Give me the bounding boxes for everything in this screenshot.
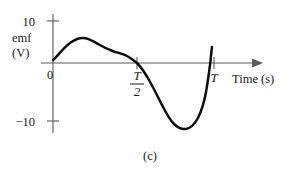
x-axis-arrow-icon: [252, 59, 263, 68]
x-tick-label-half-period-denominator: 2: [134, 84, 141, 99]
y-tick-label-10: 10: [23, 15, 36, 29]
figure-caption: (c): [143, 149, 157, 163]
y-tick-label-0: 0: [47, 68, 53, 82]
y-axis-label-line2: (V): [12, 46, 29, 60]
y-axis-label-line1: emf: [12, 31, 32, 45]
y-tick-label-neg10: −10: [15, 115, 35, 129]
x-tick-label-period: T: [210, 70, 218, 85]
emf-vs-time-figure: 10 0 −10 emf (V) T 2 T Time (s) (c): [0, 0, 293, 175]
x-axis-label: Time (s): [232, 72, 274, 86]
emf-plot-svg: 10 0 −10 emf (V) T 2 T Time (s) (c): [0, 0, 293, 175]
x-tick-label-half-period-numerator: T: [133, 68, 141, 83]
x-tick-label-half-period: T 2: [130, 68, 144, 99]
